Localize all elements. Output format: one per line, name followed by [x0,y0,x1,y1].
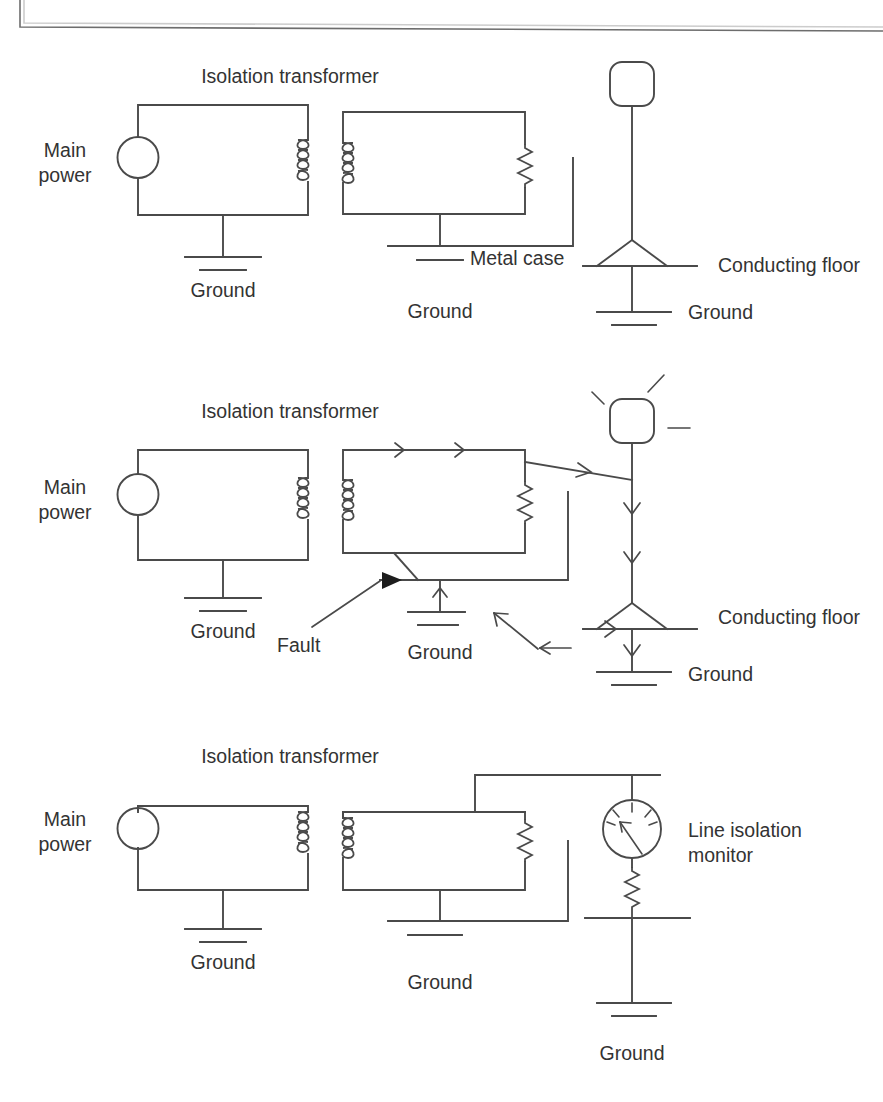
panel2-return-current-arrow-horizontal [540,642,571,654]
panel-2-fault-condition: Isolation transformer Main power Ground [38,375,860,685]
panel1-ground-primary-label: Ground [190,279,255,301]
panel3-ground-monitor-label: Ground [599,1042,664,1064]
figure-container: Isolation transformer Main power Ground [0,0,883,1102]
panel2-isolation-transformer-label: Isolation transformer [201,400,379,422]
panel2-fault-to-person-wire [525,462,632,480]
panel3-ground-primary-label: Ground [190,951,255,973]
panel1-conducting-floor-label: Conducting floor [718,254,861,276]
panel3-monitor-label-line1: Line isolation [688,819,802,841]
panel2-fault-indicator: Fault [277,553,512,656]
panel1-main-power-label-line1: Main [44,139,86,161]
panel1-main-power-label-line2: power [38,164,92,186]
panel3-ac-source-icon [118,808,159,849]
panel2-ground-symbol-primary [185,598,261,611]
panel3-metal-case-line [465,841,568,921]
panel2-ground-secondary-group: Ground [407,580,472,663]
panel3-primary-coil-icon [297,812,308,852]
person-head-icon [610,62,654,106]
panel1-metal-case-label: Metal case [470,247,564,269]
panel1-ground-symbol-secondary [388,246,465,260]
panel2-ground-primary-label: Ground [190,620,255,642]
panel3-line-isolation-monitor: Line isolation monitor [603,800,802,866]
panel1-ground-secondary-label: Ground [407,300,472,322]
panel1-secondary-circuit: Ground [342,112,532,322]
panel3-ground-secondary-label: Ground [407,971,472,993]
secondary-coil-icon [342,143,353,183]
panel3-ground-symbol-secondary [388,921,465,935]
primary-coil-icon [297,140,308,180]
gauge-needle-tip-1 [620,822,631,823]
panel2-conducting-floor-label: Conducting floor [718,606,861,628]
panel2-ground-symbol-secondary [408,612,465,625]
top-frame-fragment [20,0,883,31]
panel1-ground-floor-label: Ground [688,301,753,323]
panel2-metal-case-path [512,492,568,580]
load-resistor-icon [518,144,532,188]
fault-pointer-icon [382,572,402,589]
panel1-ground-symbol-primary [185,257,261,270]
panel3-load-resistor-icon [518,819,532,862]
panel2-secondary-circuit [342,443,532,553]
panel3-monitor-ground-branch: Ground [585,858,690,1064]
panel3-main-power-label-line1: Main [44,808,86,830]
panel3-monitor-resistor-icon [625,867,639,918]
panel3-ground-symbol-primary [185,929,261,942]
panel2-primary-circuit: Ground [118,450,309,642]
gauge-needle-icon [620,822,642,854]
panel-3-line-isolation-monitor: Isolation transformer Main power [38,745,801,1064]
panel1-primary-circuit: Ground [118,105,309,301]
panel3-primary-circuit: Ground [118,806,309,973]
panel2-ac-source-icon [118,474,159,515]
panel3-ground-symbol-monitor [597,1003,671,1016]
panel1-person-on-floor: Conducting floor Ground [583,62,861,325]
panel2-person-shocked: Conducting floor Ground [583,375,861,685]
panel3-secondary-circuit: Ground [342,812,532,993]
panel3-main-power-label-line2: power [38,833,92,855]
ac-source-icon [118,137,159,178]
shock-radiating-lines-icon [592,375,690,428]
panel-1-normal-operation: Isolation transformer Main power Ground [38,62,860,325]
panel3-monitor-label-line2: monitor [688,844,754,866]
panel2-person-head-icon [610,399,654,443]
panel2-fault-label: Fault [277,634,321,656]
panel2-load-resistor-icon [518,481,532,524]
panel2-main-power-label-line1: Main [44,476,86,498]
panel2-ground-floor-label: Ground [688,663,753,685]
panel1-ground-symbol-floor [597,312,671,325]
panel2-primary-coil-icon [297,478,308,518]
panel2-return-current-arrow-diagonal [494,613,538,649]
panel1-isolation-transformer-label: Isolation transformer [201,65,379,87]
panel2-secondary-coil-icon [342,480,353,520]
panel3-secondary-coil-icon [342,818,353,858]
panel2-ground-secondary-label: Ground [407,641,472,663]
panel2-main-power-label-line2: power [38,501,92,523]
panel2-ground-symbol-floor [597,672,671,685]
panel3-isolation-transformer-label: Isolation transformer [201,745,379,767]
